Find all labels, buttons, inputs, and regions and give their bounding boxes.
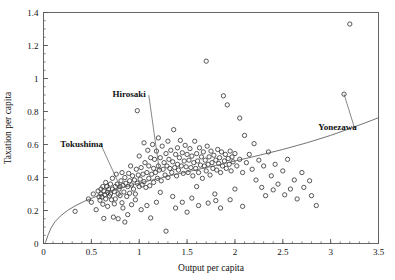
scatter-point bbox=[273, 162, 277, 166]
scatter-point bbox=[197, 146, 201, 150]
scatter-point bbox=[180, 151, 184, 155]
y-tick-label: 1.2 bbox=[27, 41, 38, 51]
scatter-point bbox=[112, 202, 116, 206]
scatter-point bbox=[158, 190, 162, 194]
scatter-point bbox=[302, 185, 306, 189]
scatter-point bbox=[173, 152, 177, 156]
scatter-point bbox=[145, 203, 149, 207]
y-tick-label: 0.2 bbox=[27, 206, 38, 216]
scatter-point bbox=[139, 208, 143, 212]
scatter-point bbox=[147, 164, 151, 168]
y-tick-label: 0.6 bbox=[27, 140, 39, 150]
scatter-point bbox=[300, 170, 304, 174]
y-tick-label: 1.4 bbox=[27, 8, 39, 18]
scatter-point bbox=[188, 146, 192, 150]
scatter-point bbox=[196, 203, 200, 207]
scatter-point bbox=[185, 152, 189, 156]
scatter-point bbox=[154, 200, 158, 204]
scatter-point bbox=[94, 208, 98, 212]
scatter-point bbox=[240, 170, 244, 174]
regression-curve bbox=[45, 118, 378, 243]
scatter-point bbox=[208, 173, 212, 177]
scatter-point bbox=[348, 22, 352, 26]
scatter-point bbox=[228, 149, 232, 153]
y-tick-label: 1 bbox=[34, 74, 39, 84]
scatter-point bbox=[193, 139, 197, 143]
scatter-point bbox=[151, 166, 155, 170]
x-tick-label: 2 bbox=[233, 247, 238, 257]
scatter-point bbox=[91, 192, 95, 196]
scatter-point bbox=[104, 180, 108, 184]
chart-canvas: 00.511.522.533.5 00.20.40.60.811.21.4 Hi… bbox=[0, 0, 395, 280]
scatter-point bbox=[151, 180, 155, 184]
scatter-point bbox=[190, 196, 194, 200]
x-tick-label: 3.5 bbox=[373, 247, 385, 257]
scatter-point bbox=[137, 154, 141, 158]
y-axis-tick-labels: 00.20.40.60.811.21.4 bbox=[27, 8, 39, 249]
scatter-point bbox=[281, 169, 285, 173]
scatter-point bbox=[143, 161, 147, 165]
scatter-point bbox=[169, 148, 173, 152]
scatter-point bbox=[134, 167, 138, 171]
scatter-point bbox=[165, 164, 169, 168]
scatter-point bbox=[173, 206, 177, 210]
y-tick-label: 0.8 bbox=[27, 107, 39, 117]
scatter-point bbox=[235, 164, 239, 168]
scatter-point bbox=[171, 194, 175, 198]
scatter-point bbox=[307, 179, 311, 183]
x-tick-label: 2.5 bbox=[277, 247, 289, 257]
scatter-point bbox=[170, 170, 174, 174]
scatter-point bbox=[158, 156, 162, 160]
scatter-point bbox=[212, 153, 216, 157]
scatter-point bbox=[213, 192, 217, 196]
scatter-point bbox=[314, 203, 318, 207]
scatter-point bbox=[223, 152, 227, 156]
y-axis-title: Taxation per capita bbox=[3, 91, 13, 164]
y-tick-label: 0.4 bbox=[27, 173, 39, 183]
fitted-curve bbox=[45, 118, 378, 243]
scatter-point bbox=[194, 184, 198, 188]
scatter-point bbox=[164, 229, 168, 233]
scatter-point bbox=[172, 127, 176, 131]
scatter-point bbox=[150, 142, 154, 146]
scatter-point bbox=[203, 158, 207, 162]
scatter-point bbox=[136, 173, 140, 177]
scatter-point bbox=[185, 210, 189, 214]
scatter-point bbox=[309, 194, 313, 198]
scatter-point bbox=[111, 215, 115, 219]
scatter-point bbox=[182, 159, 186, 163]
scatter-point bbox=[244, 161, 248, 165]
scatter-point bbox=[187, 158, 191, 162]
scatter-point bbox=[145, 170, 149, 174]
scatter-point bbox=[179, 164, 183, 168]
scatter-point bbox=[108, 182, 112, 186]
scatter-point bbox=[218, 206, 222, 210]
scatter-point bbox=[101, 202, 105, 206]
scatter-point bbox=[269, 174, 273, 178]
scatter-point bbox=[122, 190, 126, 194]
scatter-point bbox=[288, 187, 292, 191]
scatter-point bbox=[105, 204, 109, 208]
annotation-label: Tokushima bbox=[60, 139, 103, 149]
scatter-point bbox=[233, 187, 237, 191]
scatter-point bbox=[229, 169, 233, 173]
scatter-point bbox=[180, 200, 184, 204]
scatter-point bbox=[204, 59, 208, 63]
scatter-point bbox=[127, 179, 131, 183]
scatter-point bbox=[120, 201, 124, 205]
x-tick-label: 1 bbox=[137, 247, 142, 257]
scatter-point bbox=[283, 193, 287, 197]
scatter-point bbox=[224, 166, 228, 170]
scatter-point bbox=[221, 94, 225, 98]
scatter-point bbox=[178, 138, 182, 142]
scatter-point bbox=[183, 143, 187, 147]
scatter-point bbox=[190, 154, 194, 158]
scatter-point bbox=[116, 217, 120, 221]
scatter-point bbox=[120, 170, 124, 174]
scatter-point bbox=[133, 198, 137, 202]
scatter-point bbox=[199, 155, 203, 159]
scatter-point bbox=[133, 192, 137, 196]
scatter-point bbox=[123, 175, 127, 179]
scatter-point bbox=[110, 176, 114, 180]
scatter-point bbox=[184, 165, 188, 169]
